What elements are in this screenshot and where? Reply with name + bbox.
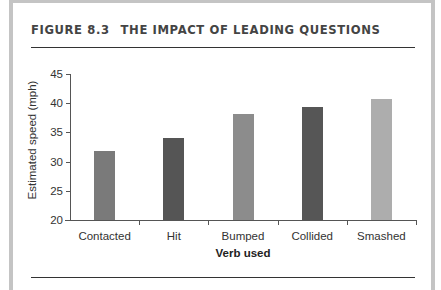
bar-hit: [163, 138, 184, 220]
bar-bumped: [233, 114, 254, 220]
y-tick-label: 30: [33, 156, 63, 168]
y-tick-label: 40: [33, 97, 63, 109]
y-tick-label: 20: [33, 214, 63, 226]
x-tick: [278, 220, 279, 225]
y-tick: [66, 74, 71, 75]
x-tick-label: Collided: [272, 230, 352, 242]
y-tick: [66, 191, 71, 192]
y-tick-label: 35: [33, 126, 63, 138]
x-tick-label: Contacted: [65, 230, 145, 242]
y-tick: [66, 220, 71, 221]
bar-smashed: [371, 99, 392, 220]
x-tick: [208, 220, 209, 225]
x-tick-label: Bumped: [203, 230, 283, 242]
bar-contacted: [94, 151, 115, 220]
x-tick: [347, 220, 348, 225]
y-tick: [66, 103, 71, 104]
bar-collided: [302, 107, 323, 220]
y-tick: [66, 132, 71, 133]
bottom-rule: [31, 277, 415, 278]
y-axis: [70, 74, 71, 221]
x-tick: [139, 220, 140, 225]
bar-chart: Estimated speed (mph) Verb used 20253035…: [0, 0, 441, 290]
x-tick-label: Smashed: [341, 230, 421, 242]
y-tick-label: 45: [33, 68, 63, 80]
y-tick-label: 25: [33, 185, 63, 197]
x-axis-label: Verb used: [216, 247, 271, 259]
x-tick-label: Hit: [134, 230, 214, 242]
x-axis: [65, 220, 417, 221]
y-tick: [66, 162, 71, 163]
x-tick: [416, 220, 417, 225]
